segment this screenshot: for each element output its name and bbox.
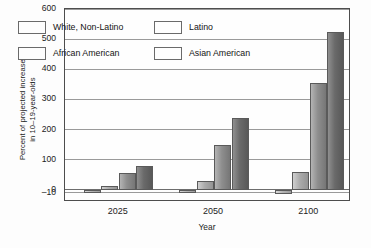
gridline-600 — [65, 9, 349, 10]
bar-2050-series-1 — [197, 181, 214, 190]
legend-item-asian-american: Asian American — [154, 47, 268, 60]
gridline-300 — [65, 99, 349, 100]
legend-label: African American — [53, 48, 120, 58]
bar-2050-series-3 — [232, 118, 249, 190]
legend-swatch-icon — [154, 21, 182, 34]
x-tick-2025: 2025 — [83, 206, 153, 216]
y-tick-200: 200 — [8, 124, 56, 134]
legend-label: White, Non-Latino — [53, 22, 123, 32]
bar-2100-series-3 — [327, 32, 344, 190]
gridline-100 — [65, 159, 349, 160]
legend-swatch-icon — [18, 21, 46, 34]
bar-2100-series-1 — [292, 172, 309, 190]
gridline-200 — [65, 129, 349, 130]
y-tick-600: 600 — [8, 3, 56, 13]
bar-2025-series-3 — [136, 166, 153, 190]
bar-2050-series-2 — [214, 145, 231, 190]
y-tick--10: –10 — [8, 187, 56, 197]
bar-chart-figure: Percent of projected increase in 10–19-y… — [0, 0, 371, 248]
bar-2025-series-0 — [84, 190, 101, 193]
gridline--10 — [65, 192, 349, 193]
gridline-400 — [65, 69, 349, 70]
y-tick-100: 100 — [8, 154, 56, 164]
bar-2025-series-1 — [101, 186, 118, 190]
x-axis-title: Year — [64, 222, 350, 232]
chart-legend: White, Non-Latino Latino African America… — [18, 14, 268, 66]
legend-label: Asian American — [189, 48, 250, 58]
bar-2100-series-2 — [310, 83, 327, 190]
bar-2100-series-0 — [275, 190, 292, 194]
legend-item-white-non-latino: White, Non-Latino — [18, 21, 154, 34]
x-tick-2100: 2100 — [273, 206, 343, 216]
y-tick-300: 300 — [8, 93, 56, 103]
legend-item-latino: Latino — [154, 21, 268, 34]
x-tick-2050: 2050 — [178, 206, 248, 216]
legend-item-african-american: African American — [18, 47, 154, 60]
legend-label: Latino — [189, 22, 213, 32]
bar-2050-series-0 — [179, 190, 196, 193]
legend-swatch-icon — [154, 47, 182, 60]
bar-2025-series-2 — [119, 173, 136, 190]
legend-swatch-icon — [18, 47, 46, 60]
